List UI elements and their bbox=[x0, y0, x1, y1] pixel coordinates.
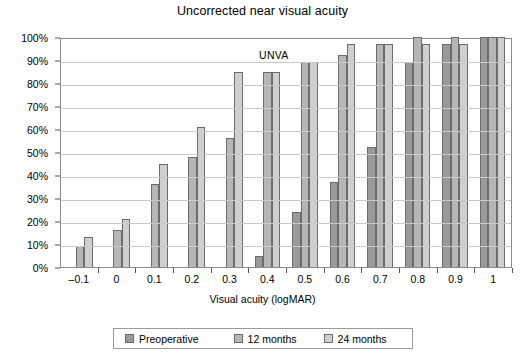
bar-group bbox=[211, 39, 249, 267]
bar bbox=[76, 246, 85, 267]
bar-group bbox=[249, 39, 287, 267]
gridline bbox=[61, 177, 511, 178]
bar bbox=[151, 184, 160, 267]
x-axis-tick-label: –0.1 bbox=[60, 273, 98, 285]
legend-swatch-icon bbox=[125, 334, 134, 343]
chart-title: Uncorrected near visual acuity bbox=[0, 4, 525, 18]
bar bbox=[188, 157, 197, 267]
bar bbox=[309, 62, 318, 267]
x-axis-tick-label: 0.3 bbox=[211, 273, 249, 285]
bar-group bbox=[474, 39, 512, 267]
legend-swatch-icon bbox=[324, 334, 333, 343]
x-axis-tick-label: 0 bbox=[98, 273, 136, 285]
y-axis-tick-label: 60% bbox=[27, 124, 48, 136]
plot-area: UNVA bbox=[60, 38, 512, 268]
x-axis-tick-label: 0.1 bbox=[135, 273, 173, 285]
x-axis-tick-label: 0.8 bbox=[399, 273, 437, 285]
bar bbox=[263, 72, 272, 268]
bar bbox=[84, 237, 93, 267]
legend-item-label: Preoperative bbox=[139, 333, 199, 345]
y-axis-tick-label: 30% bbox=[27, 193, 48, 205]
y-axis-tick-label: 0% bbox=[33, 262, 48, 274]
bars-layer bbox=[61, 39, 511, 267]
bar-group bbox=[436, 39, 474, 267]
bar-group bbox=[136, 39, 174, 267]
bar-group bbox=[324, 39, 362, 267]
bar bbox=[413, 37, 422, 267]
y-axis-tick-label: 100% bbox=[21, 32, 48, 44]
bar bbox=[338, 55, 347, 267]
gridline bbox=[61, 154, 511, 155]
x-axis-tick-label: 1 bbox=[474, 273, 512, 285]
bar bbox=[330, 182, 339, 267]
x-axis-tick-label: 0.6 bbox=[324, 273, 362, 285]
bar bbox=[451, 37, 460, 267]
gridline bbox=[61, 108, 511, 109]
bar-group bbox=[399, 39, 437, 267]
x-axis-tick-label: 0.4 bbox=[248, 273, 286, 285]
x-axis-title: Visual acuity (logMAR) bbox=[0, 293, 525, 305]
legend-item: 24 months bbox=[324, 333, 387, 345]
x-axis-tick-label: 0.9 bbox=[437, 273, 475, 285]
bar bbox=[226, 138, 235, 267]
bar bbox=[405, 62, 414, 267]
bar bbox=[480, 37, 489, 267]
bar-group bbox=[99, 39, 137, 267]
y-axis-tick-label: 40% bbox=[27, 170, 48, 182]
legend-item-label: 12 months bbox=[248, 333, 297, 345]
bar bbox=[255, 256, 264, 268]
bar bbox=[272, 72, 281, 268]
gridline bbox=[61, 85, 511, 86]
bar bbox=[497, 37, 506, 267]
bar bbox=[376, 44, 385, 267]
bar bbox=[301, 62, 310, 267]
bar bbox=[422, 44, 431, 267]
bar-group bbox=[361, 39, 399, 267]
bar bbox=[488, 37, 497, 267]
x-axis-tick-mark bbox=[512, 268, 513, 273]
y-axis-tick-label: 20% bbox=[27, 216, 48, 228]
bar bbox=[459, 44, 468, 267]
bar bbox=[234, 72, 243, 268]
bar bbox=[384, 44, 393, 267]
bar bbox=[159, 164, 168, 268]
gridline bbox=[61, 223, 511, 224]
bar bbox=[122, 219, 131, 267]
legend-item-label: 24 months bbox=[338, 333, 387, 345]
x-axis-tick-labels: –0.100.10.20.30.40.50.60.70.80.91 bbox=[60, 273, 512, 285]
x-axis-tick-label: 0.7 bbox=[361, 273, 399, 285]
x-axis-tick-label: 0.5 bbox=[286, 273, 324, 285]
gridline bbox=[61, 62, 511, 63]
bar-group bbox=[61, 39, 99, 267]
bar bbox=[113, 230, 122, 267]
legend-swatch-icon bbox=[234, 334, 243, 343]
y-axis-tick-label: 10% bbox=[27, 239, 48, 251]
y-axis-tick-label: 50% bbox=[27, 147, 48, 159]
bar bbox=[292, 212, 301, 267]
legend-item: Preoperative bbox=[125, 333, 199, 345]
bar-group bbox=[286, 39, 324, 267]
y-axis-tick-label: 90% bbox=[27, 55, 48, 67]
chart-container: Uncorrected near visual acuity 100%90%80… bbox=[0, 0, 525, 357]
bar bbox=[367, 147, 376, 267]
bar bbox=[347, 44, 356, 267]
gridline bbox=[61, 131, 511, 132]
x-axis-tick-label: 0.2 bbox=[173, 273, 211, 285]
y-axis-tick-label: 80% bbox=[27, 78, 48, 90]
legend-item: 12 months bbox=[234, 333, 297, 345]
chart-legend: Preoperative12 months24 months bbox=[113, 328, 413, 349]
bar bbox=[442, 44, 451, 267]
gridline bbox=[61, 200, 511, 201]
bar-group bbox=[174, 39, 212, 267]
gridline bbox=[61, 246, 511, 247]
y-axis-tick-label: 70% bbox=[27, 101, 48, 113]
